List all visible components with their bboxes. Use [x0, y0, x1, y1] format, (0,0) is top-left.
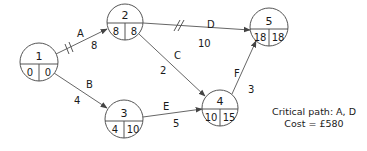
node-5-earliest: 18: [254, 32, 267, 43]
node-3-earliest: 4: [112, 124, 118, 135]
edge-b-activity: B: [86, 79, 93, 90]
cost-text: Cost = £580: [255, 118, 367, 130]
edge-b: B 4: [54, 73, 107, 108]
node-5-latest: 18: [272, 32, 285, 43]
edge-c: C 2: [139, 34, 205, 96]
edge-d: D 10: [143, 19, 250, 49]
edge-a-activity: A: [77, 28, 84, 39]
node-4-label: 4: [217, 95, 224, 108]
node-2-label: 2: [122, 9, 129, 22]
edge-f: F 3: [232, 41, 256, 95]
node-1-latest: 0: [45, 67, 51, 78]
node-1-label: 1: [36, 50, 43, 63]
node-2-earliest: 8: [113, 26, 119, 37]
node-5-label: 5: [266, 15, 273, 28]
node-4-earliest: 10: [205, 112, 218, 123]
node-4-latest: 15: [223, 112, 236, 123]
node-2: 2 8 8: [107, 4, 143, 40]
edge-f-activity: F: [234, 68, 240, 79]
edge-e-activity: E: [163, 101, 169, 112]
node-1-earliest: 0: [27, 67, 33, 78]
edge-d-duration: 10: [198, 38, 211, 49]
node-3: 3 4 10: [105, 100, 143, 138]
edge-e: E 5: [143, 101, 202, 129]
edge-f-duration: 3: [248, 84, 254, 95]
edge-c-activity: C: [174, 50, 181, 61]
node-4: 4 10 15: [202, 90, 238, 126]
critical-path-note: Critical path: A, D Cost = £580: [255, 106, 367, 130]
edge-b-duration: 4: [74, 95, 80, 106]
node-2-latest: 8: [131, 26, 137, 37]
critical-path-text: Critical path: A, D: [255, 106, 367, 118]
edge-d-activity: D: [207, 19, 215, 30]
node-3-label: 3: [121, 107, 128, 120]
edge-e-duration: 5: [173, 118, 179, 129]
node-5: 5 18 18: [250, 8, 288, 46]
node-1: 1 0 0: [20, 43, 58, 81]
edge-c-duration: 2: [160, 65, 166, 76]
node-3-latest: 10: [127, 124, 140, 135]
edge-a-duration: 8: [91, 40, 97, 51]
edge-a: A 8: [56, 28, 107, 54]
